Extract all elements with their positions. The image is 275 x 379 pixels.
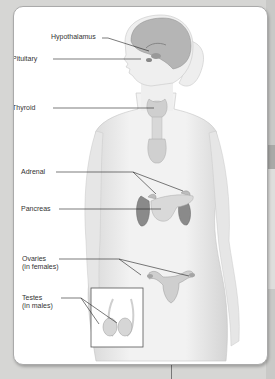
- label-adrenal: Adrenal: [21, 168, 45, 176]
- left-testis: [103, 318, 117, 336]
- label-ovaries-qualifier: (in females): [22, 263, 59, 271]
- label-hypothalamus: Hypothalamus: [51, 33, 96, 41]
- left-ovary: [147, 274, 153, 278]
- right-ovary: [189, 273, 195, 277]
- right-testis: [118, 318, 132, 336]
- diagram-card: Hypothalamus Pituitary Thyroid Adrenal P…: [13, 6, 268, 365]
- testes-inset: [91, 288, 143, 347]
- label-ovaries: Ovaries: [22, 255, 46, 263]
- pituitary-organ: [146, 58, 152, 62]
- label-testes: Testes: [22, 294, 42, 302]
- label-pituitary: Pituitary: [13, 55, 37, 63]
- body-illustration: [14, 7, 267, 364]
- label-pancreas: Pancreas: [21, 205, 51, 213]
- label-thyroid: Thyroid: [13, 104, 35, 112]
- hypothalamus-organ: [151, 53, 161, 59]
- label-testes-qualifier: (in males): [22, 302, 53, 310]
